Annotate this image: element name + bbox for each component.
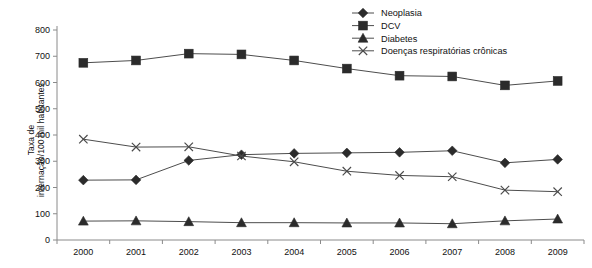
plot-area: 0100200300400500600700800 20002001200220… xyxy=(0,0,592,268)
data-series-layer xyxy=(78,49,562,228)
x-tick-label: 2008 xyxy=(495,247,515,257)
y-tick-label: 800 xyxy=(35,25,50,35)
line-chart: Taxa de internação/100 mil habitantes 01… xyxy=(0,0,592,268)
x-tick-label: 2009 xyxy=(548,247,568,257)
chart-legend: NeoplasiaDCVDiabetesDoenças respiratória… xyxy=(352,8,508,56)
y-tick-label: 500 xyxy=(35,104,50,114)
y-tick-label: 700 xyxy=(35,51,50,61)
y-tick-label: 100 xyxy=(35,209,50,219)
y-tick-label: 600 xyxy=(35,78,50,88)
x-tick-label: 2002 xyxy=(179,247,199,257)
y-axis-ticks: 0100200300400500600700800 xyxy=(35,25,57,245)
x-tick-label: 2005 xyxy=(337,247,357,257)
legend-item-doen-as-respirat-rias-cr-nicas: Doenças respiratórias crônicas xyxy=(352,46,508,56)
legend-item-dcv: DCV xyxy=(352,21,401,31)
legend-label: Neoplasia xyxy=(381,8,423,18)
y-tick-label: 400 xyxy=(35,130,50,140)
x-tick-label: 2000 xyxy=(73,247,93,257)
x-tick-label: 2006 xyxy=(390,247,410,257)
series-diabetes xyxy=(78,214,562,228)
x-tick-label: 2003 xyxy=(231,247,251,257)
x-tick-label: 2007 xyxy=(442,247,462,257)
legend-label: Doenças respiratórias crônicas xyxy=(381,46,508,56)
legend-label: DCV xyxy=(381,21,401,31)
series-neoplasia xyxy=(79,146,563,185)
x-axis-ticks: 2000200120022003200420052006200720082009 xyxy=(57,240,584,257)
y-tick-label: 0 xyxy=(45,235,50,245)
x-tick-label: 2004 xyxy=(284,247,304,257)
y-tick-label: 200 xyxy=(35,183,50,193)
legend-label: Diabetes xyxy=(381,34,418,44)
series-doen-as-respirat-rias-cr-nicas xyxy=(79,135,562,196)
x-tick-label: 2001 xyxy=(126,247,146,257)
legend-item-diabetes: Diabetes xyxy=(352,33,418,43)
legend-item-neoplasia: Neoplasia xyxy=(352,8,423,18)
y-tick-label: 300 xyxy=(35,156,50,166)
